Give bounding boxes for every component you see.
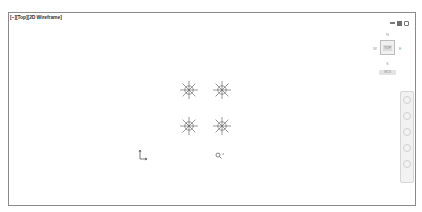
viewcube[interactable]: N W TOP E S WCS — [373, 33, 403, 77]
wcs-menu-button[interactable]: WCS — [379, 70, 396, 75]
steering-wheel-icon[interactable] — [403, 96, 411, 104]
viewcube-north[interactable]: N — [386, 33, 389, 37]
maximize-icon[interactable] — [396, 20, 402, 26]
navigation-bar — [400, 91, 414, 183]
viewcube-south[interactable]: S — [386, 62, 389, 66]
sunburst-symbol[interactable] — [179, 116, 199, 136]
ucs-icon — [137, 148, 151, 162]
minimize-icon[interactable] — [389, 20, 395, 26]
viewport-controls-label[interactable]: [−][Top][2D Wireframe] — [10, 14, 62, 20]
pickbox-cursor-icon — [215, 152, 225, 160]
viewcube-top-face[interactable]: TOP — [380, 40, 395, 55]
orbit-icon[interactable] — [403, 144, 411, 152]
sunburst-symbol[interactable] — [179, 80, 199, 100]
zoom-icon[interactable] — [403, 128, 411, 136]
close-icon[interactable] — [403, 20, 409, 26]
sunburst-symbol[interactable] — [212, 116, 232, 136]
pan-icon[interactable] — [403, 112, 411, 120]
viewcube-west[interactable]: W — [373, 47, 377, 51]
viewport-window-controls — [389, 20, 409, 26]
showmotion-icon[interactable] — [403, 160, 411, 168]
sunburst-symbol[interactable] — [212, 80, 232, 100]
viewcube-east[interactable]: E — [399, 47, 402, 51]
drawing-viewport[interactable]: [−][Top][2D Wireframe] N W TOP E S WCS — [8, 12, 416, 206]
viewcube-face-label: TOP — [383, 45, 392, 51]
